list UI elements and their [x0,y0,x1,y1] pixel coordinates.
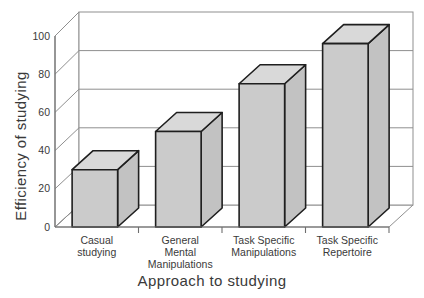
bar-general-mental-manipulations [156,113,223,228]
bar-front-face [156,132,202,228]
y-tick-label: 0 [44,221,50,233]
y-tick-label: 80 [38,68,50,80]
chart-canvas: 020406080100CasualstudyingGeneralMentalM… [0,0,424,298]
x-axis-title: Approach to studying [0,272,424,289]
y-tick-labels: 020406080100 [32,30,50,233]
category-label: GeneralMentalManipulations [148,234,213,270]
bar-front-face [72,170,118,227]
bar-task-specific-repertoire [323,25,390,227]
bar-side-face [285,65,306,227]
y-tick-label: 100 [32,30,50,42]
bar-side-face [368,25,389,227]
y-tick-label: 20 [38,182,50,194]
bar-task-specific-manipulations [239,65,306,227]
bar-front-face [323,44,369,227]
category-label: Task SpecificRepertoire [317,234,378,258]
y-tick-label: 40 [38,144,50,156]
efficiency-of-studying-chart: 020406080100CasualstudyingGeneralMentalM… [0,0,424,298]
y-axis-title: Efficiency of studying [12,71,29,220]
bar-casual-studying [72,151,139,227]
category-label: Task SpecificManipulations [231,234,296,258]
category-labels: CasualstudyingGeneralMentalManipulations… [77,234,378,270]
category-label: Casualstudying [77,234,116,258]
y-tick-label: 60 [38,106,50,118]
bar-front-face [239,84,285,227]
